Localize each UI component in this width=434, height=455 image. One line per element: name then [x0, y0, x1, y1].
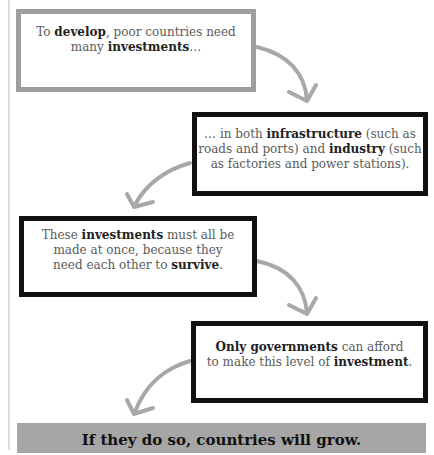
text: (such as — [362, 127, 416, 141]
text: to make this level of — [207, 355, 334, 369]
keyword: investments — [108, 40, 190, 54]
text: . — [408, 355, 412, 369]
step-text-3: These investments must all be made at on… — [42, 228, 235, 285]
step-box-3: These investments must all be made at on… — [19, 216, 257, 297]
step-box-4: Only governments can afford to make this… — [191, 321, 428, 403]
step-box-2: … in both infrastructure (such as roads … — [192, 112, 428, 196]
keyword: infrastructure — [267, 127, 362, 141]
text: These — [42, 228, 82, 242]
text: … in both — [204, 127, 266, 141]
text: (such — [385, 142, 422, 156]
text: … — [189, 40, 201, 54]
text: To — [36, 25, 54, 39]
text: roads and ports) and — [198, 142, 329, 156]
step-text-2: … in both infrastructure (such as roads … — [198, 127, 422, 182]
text: can afford — [338, 340, 404, 354]
keyword: Only governments — [216, 340, 338, 354]
step-text-1: To develop, poor countries need many inv… — [36, 25, 236, 77]
keyword: investment — [334, 355, 409, 369]
curved-arrow-icon — [257, 47, 316, 101]
conclusion-banner: If they do so, countries will grow. — [17, 423, 426, 453]
keyword: develop — [54, 25, 106, 39]
step-text-4: Only governments can afford to make this… — [207, 340, 413, 384]
curved-arrow-icon — [127, 361, 190, 414]
text: made at once, because they — [53, 243, 222, 257]
text: as factories and power stations). — [211, 157, 410, 171]
curved-arrow-icon — [257, 261, 316, 314]
keyword: survive — [171, 258, 219, 272]
text: many — [71, 40, 108, 54]
keyword: investments — [82, 228, 164, 242]
text: . — [219, 258, 223, 272]
text: , poor countries need — [106, 25, 236, 39]
keyword: industry — [329, 142, 385, 156]
text: must all be — [163, 228, 234, 242]
curved-arrow-icon — [127, 163, 190, 207]
text: need each other to — [53, 258, 171, 272]
step-box-1: To develop, poor countries need many inv… — [16, 9, 256, 92]
